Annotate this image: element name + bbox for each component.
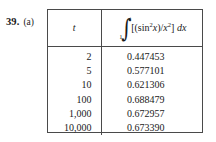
table-row: 2 0.447453 <box>48 47 202 65</box>
table-row: 1,000 0.672957 <box>48 107 202 121</box>
column-header-t-label: t <box>48 23 101 33</box>
integral-expression: ∫ t 1 [(sin2x)/x2] dx <box>102 17 203 39</box>
cell-value: 0.447453 <box>101 47 202 65</box>
table-row: 5 0.577101 <box>48 64 202 78</box>
problem-label: 39. (a) <box>6 16 34 27</box>
cell-value: 0.577101 <box>101 64 202 78</box>
column-header-integral: ∫ t 1 [(sin2x)/x2] dx <box>101 10 202 47</box>
table-row: 10 0.621306 <box>48 78 202 92</box>
cell-t: 5 <box>48 64 101 78</box>
cell-value: 0.672957 <box>101 107 202 121</box>
table-row: 10,000 0.673390 <box>48 121 202 135</box>
cell-value: 0.688479 <box>101 93 202 107</box>
problem-number: 39. <box>6 16 19 27</box>
integral-upper-limit: t <box>129 16 131 23</box>
cell-t: 100 <box>48 93 101 107</box>
problem-part-letter: (a) <box>23 17 34 27</box>
table-header-row: t ∫ t 1 [(sin2x)/x2] dx <box>48 10 202 47</box>
cell-t: 10 <box>48 78 101 92</box>
integrand-close: ] <box>171 22 174 33</box>
cell-t: 1,000 <box>48 107 101 121</box>
table-row: 100 0.688479 <box>48 93 202 107</box>
data-table-container: t ∫ t 1 [(sin2x)/x2] dx <box>47 9 203 133</box>
column-header-t: t <box>48 10 101 47</box>
table-header: t ∫ t 1 [(sin2x)/x2] dx <box>48 10 202 47</box>
figure-root: 39. (a) t ∫ t 1 <box>0 0 216 142</box>
cell-value: 0.673390 <box>101 121 202 135</box>
differential-dx: dx <box>177 23 186 33</box>
integrand-open: [(sin <box>131 22 149 33</box>
integral-sign-icon: ∫ t 1 <box>119 17 130 39</box>
table-body: 2 0.447453 5 0.577101 10 0.621306 100 0.… <box>48 47 202 136</box>
integrand-expression: [(sin2x)/x2] <box>131 23 174 33</box>
data-table: t ∫ t 1 [(sin2x)/x2] dx <box>48 10 202 135</box>
cell-value: 0.621306 <box>101 78 202 92</box>
cell-t: 10,000 <box>48 121 101 135</box>
cell-t: 2 <box>48 47 101 65</box>
integral-lower-limit: 1 <box>119 34 122 41</box>
